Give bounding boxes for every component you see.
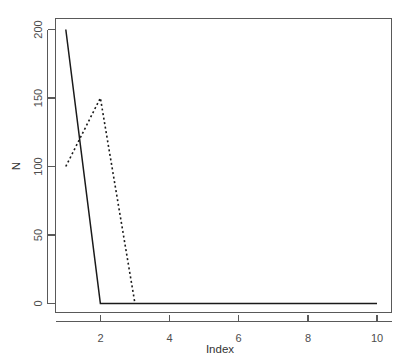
y-tick-label-100: 100 <box>32 157 44 175</box>
x-tick-label-8: 8 <box>305 332 311 344</box>
x-tick-label-10: 10 <box>371 332 383 344</box>
x-tick-label-6: 6 <box>235 332 241 344</box>
x-axis-tick-labels: 2 4 6 8 10 <box>97 332 383 344</box>
plot-frame <box>56 19 392 313</box>
series-dashed-line <box>66 98 135 304</box>
x-axis: 2 4 6 8 10 Index <box>56 315 392 356</box>
y-axis: 200 150 100 50 0 N <box>10 20 55 306</box>
x-tick-label-4: 4 <box>166 332 172 344</box>
y-tick-label-50: 50 <box>32 229 44 241</box>
plot-container: 200 150 100 50 0 N 2 4 6 8 <box>0 0 413 364</box>
series-solid-line <box>66 30 377 304</box>
y-tick-label-150: 150 <box>32 89 44 107</box>
chart-canvas: 200 150 100 50 0 N 2 4 6 8 <box>0 0 413 364</box>
x-axis-ticks <box>101 315 378 322</box>
y-tick-label-0: 0 <box>32 300 44 306</box>
x-axis-title: Index <box>206 343 234 355</box>
y-axis-title: N <box>10 162 22 170</box>
x-tick-label-2: 2 <box>97 332 103 344</box>
y-tick-label-200: 200 <box>32 20 44 38</box>
data-series-group <box>66 30 377 304</box>
y-axis-tick-labels: 200 150 100 50 0 <box>32 20 44 306</box>
y-axis-ticks <box>48 30 55 304</box>
